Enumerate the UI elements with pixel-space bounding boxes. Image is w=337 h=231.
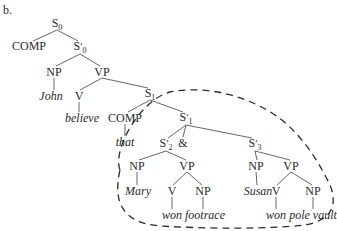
tree-node-comp0: COMP <box>12 40 46 52</box>
tree-node-won2: won <box>162 209 182 221</box>
tree-node-vp3: VP <box>283 160 298 172</box>
tree-node-won3: won <box>266 209 286 221</box>
tree-node-polevault: pole vault <box>289 209 337 221</box>
tree-node-footrace: footrace <box>185 209 225 221</box>
syntax-tree-diagram: b. S0COMPS′0NPVPJohnVS1believeCOMPS′1tha… <box>0 0 337 231</box>
tree-node-believe: believe <box>65 112 99 124</box>
tree-node-np3: NP <box>248 160 263 172</box>
tree-node-john: John <box>39 90 62 102</box>
tree-node-sp3: S′3 <box>248 137 261 152</box>
tree-node-sp0: S′0 <box>73 40 86 55</box>
tree-node-vp2: VP <box>179 160 194 172</box>
tree-edge <box>102 78 148 88</box>
tree-node-sp2: S′2 <box>159 137 172 152</box>
tree-node-s0: S0 <box>52 17 63 32</box>
tree-node-vp0: VP <box>94 66 109 78</box>
tree-edge <box>150 100 183 112</box>
tree-node-v0: V <box>75 90 84 102</box>
tree-node-sp1: S′1 <box>179 111 192 126</box>
tree-node-susan: Susan <box>244 185 273 197</box>
tree-node-comp1: COMP <box>108 112 142 124</box>
tree-node-np0: NP <box>46 66 61 78</box>
tree-edge <box>186 125 252 138</box>
tree-node-np3b: NP <box>305 185 320 197</box>
tree-node-amp: & <box>178 137 187 149</box>
tree-node-that: that <box>116 136 135 148</box>
tree-node-np2b: NP <box>195 185 210 197</box>
tree-node-s1: S1 <box>145 87 156 102</box>
tree-node-v2: V <box>168 185 177 197</box>
tree-node-mary: Mary <box>125 185 151 197</box>
tree-node-np2: NP <box>129 160 144 172</box>
tree-node-v3: V <box>272 185 281 197</box>
